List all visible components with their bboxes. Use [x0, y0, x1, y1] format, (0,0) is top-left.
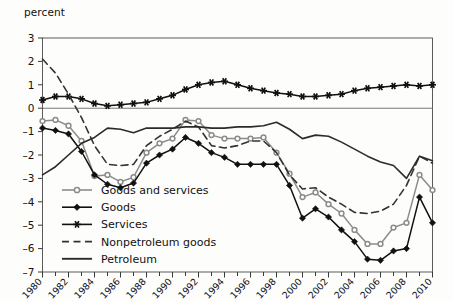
y-tick-label: –4 [23, 196, 35, 208]
chart-legend: Goods and servicesGoodsServicesNonpetrol… [62, 184, 216, 266]
y-tick-label: –3 [23, 172, 35, 184]
x-tick-label: 2008 [384, 276, 408, 301]
data-series-group [39, 59, 436, 263]
series-petroleum [43, 122, 433, 178]
x-tick-label: 2002 [306, 276, 330, 301]
x-tick-label: 1984 [72, 276, 96, 301]
y-tick-label: 0 [28, 102, 35, 114]
x-tick-label: 1986 [98, 276, 122, 301]
x-axis-ticks: 1980198219841986198819901992199419961998… [20, 272, 434, 301]
x-tick-label: 2006 [358, 276, 382, 301]
legend-item[interactable]: Services [62, 218, 148, 231]
legend-label: Petroleum [101, 253, 157, 266]
legend-item[interactable]: Nonpetroleum goods [62, 236, 216, 249]
x-tick-label: 2010 [410, 276, 434, 301]
line-chart-canvas: 3210–1–2–3–4–5–6–7 198019821984198619881… [0, 0, 453, 301]
legend-label: Goods and services [101, 184, 209, 197]
y-axis-ticks: 3210–1–2–3–4–5–6–7 [23, 32, 43, 278]
x-tick-label: 1982 [46, 276, 70, 301]
x-tick-label: 2004 [332, 276, 356, 301]
x-tick-label: 1990 [150, 276, 174, 301]
x-tick-label: 2000 [280, 276, 304, 301]
legend-label: Services [101, 218, 148, 231]
legend-label: Nonpetroleum goods [101, 236, 216, 249]
chart-figure: percent 3210–1–2–3–4–5–6–7 1980198219841… [0, 0, 453, 301]
y-tick-label: –1 [23, 125, 35, 137]
x-tick-label: 1998 [254, 276, 278, 301]
legend-item[interactable]: Goods [62, 201, 136, 214]
legend-item[interactable]: Petroleum [62, 253, 157, 266]
y-tick-label: 1 [28, 79, 35, 91]
y-tick-label: 3 [28, 32, 35, 44]
y-tick-label: –7 [23, 266, 35, 278]
x-tick-label: 1980 [20, 276, 44, 301]
y-tick-label: 2 [28, 55, 35, 67]
legend-item[interactable]: Goods and services [62, 184, 209, 197]
y-tick-label: –6 [23, 242, 35, 254]
y-tick-label: –2 [23, 149, 35, 161]
y-tick-label: –5 [23, 219, 35, 231]
series-goods-and-services [40, 118, 435, 247]
x-tick-label: 1988 [124, 276, 148, 301]
series-services [39, 78, 436, 109]
x-tick-label: 1994 [202, 276, 226, 301]
x-tick-label: 1992 [176, 276, 200, 301]
x-tick-label: 1996 [228, 276, 252, 301]
legend-label: Goods [101, 201, 136, 214]
